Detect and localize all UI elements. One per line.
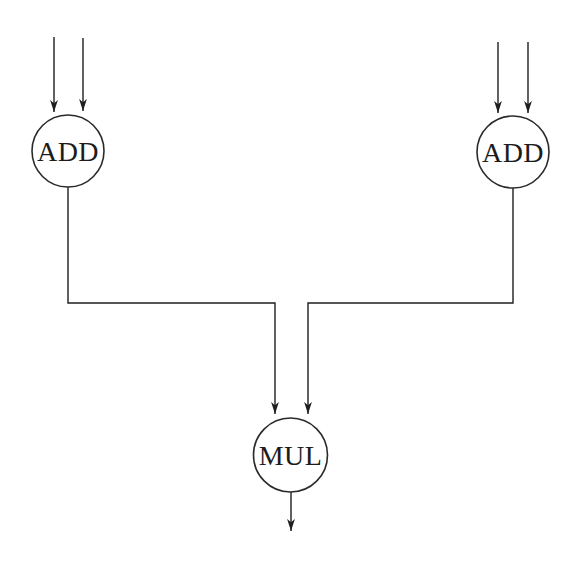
- node-add-left: ADD: [32, 115, 104, 187]
- add-right-label: ADD: [482, 137, 544, 168]
- dataflow-diagram: ADD ADD MUL: [0, 0, 576, 561]
- mul-label: MUL: [259, 440, 323, 471]
- add-left-label: ADD: [37, 136, 99, 167]
- node-mul: MUL: [254, 418, 328, 492]
- edge-add-left-to-mul: [68, 187, 275, 414]
- node-add-right: ADD: [477, 116, 549, 188]
- add-right-input-arrows: [498, 42, 528, 113]
- add-left-input-arrows: [54, 37, 83, 112]
- diagram-svg: ADD ADD MUL: [0, 0, 576, 561]
- edge-add-right-to-mul: [308, 188, 513, 414]
